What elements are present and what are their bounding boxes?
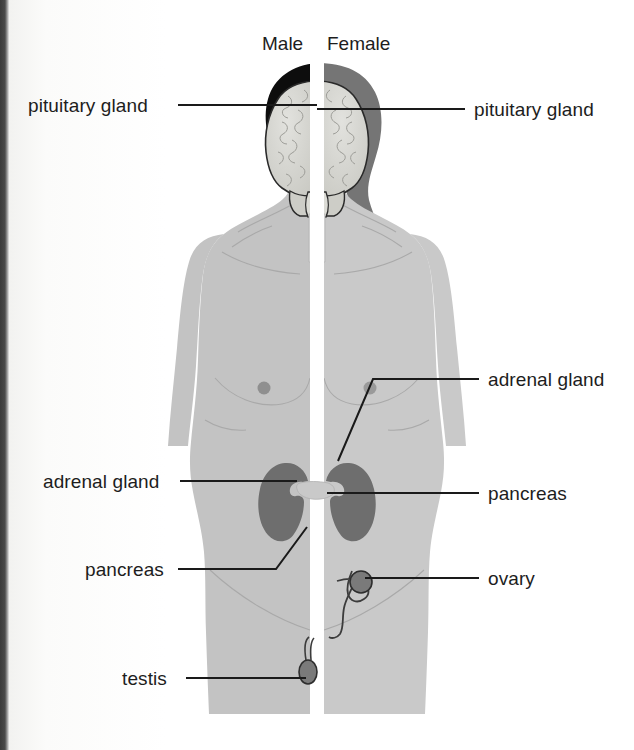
body-female xyxy=(317,150,466,714)
label-adrenal-gland-right: adrenal gland xyxy=(488,369,604,391)
ovary-organ xyxy=(350,571,372,593)
label-pituitary-gland-right: pituitary gland xyxy=(474,99,594,121)
header-male: Male xyxy=(262,33,303,55)
header-female: Female xyxy=(327,33,390,55)
scanned-page: Male Female pituitary gland pituitary gl… xyxy=(0,0,634,750)
label-pituitary-gland-left: pituitary gland xyxy=(28,95,148,117)
label-ovary: ovary xyxy=(488,568,535,590)
nipple-male xyxy=(258,382,271,395)
label-adrenal-gland-left: adrenal gland xyxy=(43,471,159,493)
label-pancreas-right: pancreas xyxy=(488,483,567,505)
label-testis: testis xyxy=(122,668,167,690)
testis-organ xyxy=(299,660,317,684)
body-male xyxy=(168,150,317,714)
label-pancreas-left: pancreas xyxy=(85,559,164,581)
